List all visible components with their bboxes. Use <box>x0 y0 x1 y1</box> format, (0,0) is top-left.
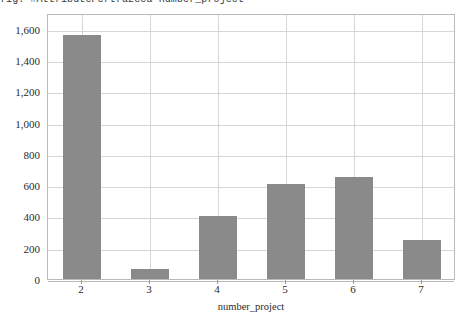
x-axis-title: number_project <box>47 301 455 312</box>
x-axis-tick-label: 3 <box>146 283 152 295</box>
bar-chart: fig: #AttributePertrazeca number_project… <box>0 0 467 321</box>
x-axis-tick-label: 5 <box>282 283 288 295</box>
y-axis-tick-label: 1,000 <box>0 118 40 130</box>
y-axis-tick-label: 1,600 <box>0 24 40 36</box>
y-axis-tick-label: 1,400 <box>0 55 40 67</box>
gridline-horizontal <box>48 281 454 282</box>
x-axis-tick-label: 4 <box>214 283 220 295</box>
y-axis-tick-label: 200 <box>0 243 40 255</box>
y-axis-tick-label: 1,200 <box>0 86 40 98</box>
x-axis-tick-label: 6 <box>350 283 356 295</box>
x-axis-tick-labels: 234567 <box>47 283 455 299</box>
chart-title: fig: #AttributePertrazeca number_project <box>0 0 467 6</box>
y-axis-tick-labels: 02004006008001,0001,2001,4001,600 <box>0 14 467 280</box>
y-axis-tick-label: 800 <box>0 149 40 161</box>
y-axis-tick-label: 600 <box>0 180 40 192</box>
x-axis-tick-label: 2 <box>78 283 84 295</box>
y-axis-tick-label: 0 <box>0 274 40 286</box>
y-axis-tick-label: 400 <box>0 211 40 223</box>
x-axis-tick-label: 7 <box>418 283 424 295</box>
